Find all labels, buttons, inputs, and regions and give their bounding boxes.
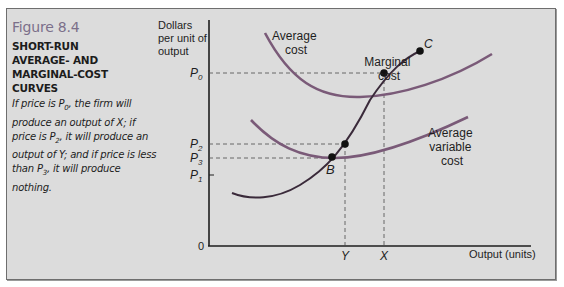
p3-label: P3 (190, 151, 203, 167)
p0-label: P0 (190, 66, 203, 82)
y-output-label: Y (341, 249, 350, 263)
point-b-label: B (326, 162, 335, 177)
p1-label: P1 (190, 168, 202, 184)
point-c (416, 47, 424, 55)
origin-label: 0 (198, 240, 204, 252)
x-output-label: X (379, 249, 389, 263)
y-axis-label: Dollars per unit of output (158, 19, 210, 57)
point-c-label: C (424, 37, 433, 51)
marginal-cost-label: Marginal cost (364, 55, 413, 83)
average-variable-cost-label: Average variable cost (428, 126, 476, 168)
point-b (328, 153, 336, 161)
cost-curves-chart: Dollars per unit of output 0 Output (uni… (0, 0, 564, 287)
x-axis-label: Output (units) (469, 248, 536, 260)
point-p2-y (341, 140, 349, 148)
guide-lines (209, 73, 384, 246)
average-cost-label: Average cost (272, 29, 320, 57)
